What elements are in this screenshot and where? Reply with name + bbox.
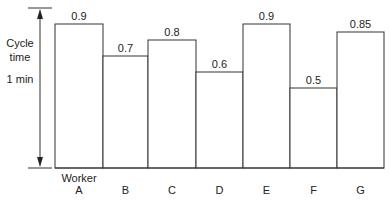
cycle-time-chart: Cycle time 1 min 0.9A0.7B0.8C0.6D0.9E0.5… [0,0,390,201]
bar-f [290,88,337,168]
value-label-c: 0.8 [164,26,179,38]
y-reference-label: 1 min [7,73,34,85]
y-axis-label-line1: Cycle [6,37,34,49]
bar-d [196,72,243,168]
bar-c [148,40,196,168]
bar-b [103,56,148,168]
value-label-d: 0.6 [212,58,227,70]
category-label-c: C [168,184,176,196]
bar-e [243,24,290,168]
bar-a [55,24,103,168]
y-axis-arrow [28,8,52,168]
x-axis-label: Worker [61,172,97,184]
category-label-f: F [310,184,317,196]
category-label-g: G [356,184,365,196]
bars-group: 0.9A0.7B0.8C0.6D0.9E0.5F0.85G [55,10,384,196]
category-label-a: A [75,184,83,196]
value-label-g: 0.85 [350,18,371,30]
category-label-b: B [122,184,129,196]
value-label-e: 0.9 [259,10,274,22]
value-label-a: 0.9 [71,10,86,22]
value-label-b: 0.7 [118,42,133,54]
category-label-e: E [263,184,270,196]
bar-g [337,32,384,168]
value-label-f: 0.5 [306,74,321,86]
category-label-d: D [216,184,224,196]
y-axis-label-line2: time [10,51,31,63]
